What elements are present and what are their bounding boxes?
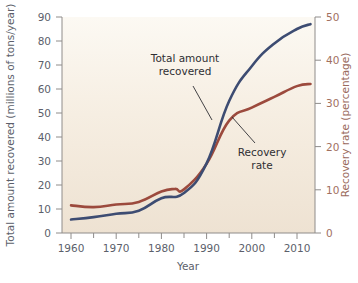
left-tick-label-90: 90 [38, 11, 51, 23]
x-axis-title: Year [176, 260, 200, 272]
recovery-chart: 0 10 20 30 40 50 60 70 80 90 Total amoun… [0, 0, 358, 283]
left-tick-label-30: 30 [38, 155, 51, 167]
left-axis-title: Total amount recovered (millions of tons… [4, 4, 16, 248]
annotation-rate-line2: rate [251, 159, 272, 171]
right-tick-label-50: 50 [326, 11, 339, 23]
left-tick-label-80: 80 [38, 35, 51, 47]
annotation-total-line1: Total amount [150, 52, 219, 64]
x-tick-label-1970: 1970 [103, 242, 130, 254]
figure-container: 0 10 20 30 40 50 60 70 80 90 Total amoun… [0, 0, 358, 283]
left-tick-label-20: 20 [38, 179, 51, 191]
annotation-total-line2: recovered [159, 65, 212, 77]
left-y-axis: 0 10 20 30 40 50 60 70 80 90 Total amoun… [4, 4, 62, 248]
x-axis: 1960 1970 1980 1990 2000 2010 Year [58, 233, 315, 272]
x-tick-label-2000: 2000 [238, 242, 265, 254]
left-tick-label-0: 0 [44, 227, 51, 239]
x-tick-label-1980: 1980 [148, 242, 175, 254]
right-tick-label-0: 0 [326, 227, 333, 239]
x-tick-label-2010: 2010 [284, 242, 311, 254]
right-y-axis: 0 10 20 30 40 50 Recovery rate (percenta… [315, 11, 351, 239]
right-axis-title: Recovery rate (percentage) [339, 53, 351, 198]
left-tick-label-50: 50 [38, 107, 51, 119]
plot-area-background [62, 17, 315, 233]
x-tick-label-1990: 1990 [193, 242, 220, 254]
right-tick-label-20: 20 [326, 141, 339, 153]
right-tick-label-10: 10 [326, 184, 339, 196]
left-tick-label-60: 60 [38, 83, 51, 95]
x-tick-label-1960: 1960 [58, 242, 85, 254]
left-tick-label-10: 10 [38, 203, 51, 215]
annotation-rate-line1: Recovery [238, 146, 287, 158]
right-tick-label-30: 30 [326, 97, 339, 109]
left-tick-label-70: 70 [38, 59, 51, 71]
right-tick-label-40: 40 [326, 54, 339, 66]
left-tick-label-40: 40 [38, 131, 51, 143]
